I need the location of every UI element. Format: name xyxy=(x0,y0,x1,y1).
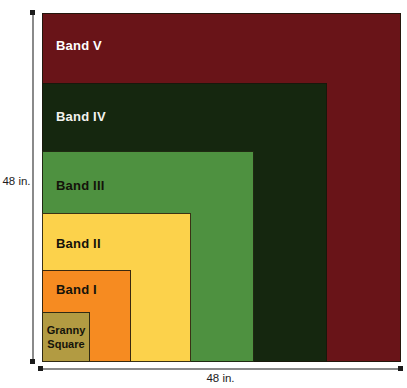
arrowhead-top-icon xyxy=(30,10,35,15)
width-dimension-arrow xyxy=(40,368,401,370)
height-dimension-arrow xyxy=(32,12,34,362)
arrowhead-left-icon xyxy=(38,366,43,371)
height-dimension-label: 48 in. xyxy=(2,175,31,187)
granny-square-label-line1: Granny xyxy=(47,323,86,337)
granny-square: Granny Square xyxy=(42,312,90,362)
granny-square-blanket-diagram: 48 in. 48 in. Band V Band IV Band III Ba… xyxy=(0,0,407,388)
granny-square-label-line2: Square xyxy=(47,337,84,351)
band-iii-label: Band III xyxy=(56,178,105,193)
band-iv-label: Band IV xyxy=(56,109,106,124)
band-ii-label: Band II xyxy=(56,236,101,251)
arrowhead-bottom-icon xyxy=(30,359,35,364)
arrowhead-right-icon xyxy=(398,366,403,371)
width-dimension-label: 48 in. xyxy=(40,372,401,384)
band-v-label: Band V xyxy=(56,38,102,53)
band-i-label: Band I xyxy=(56,282,97,297)
